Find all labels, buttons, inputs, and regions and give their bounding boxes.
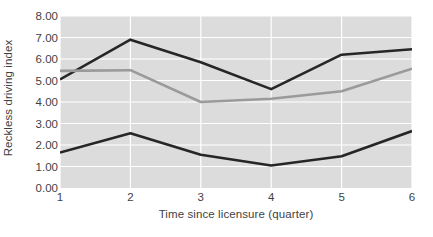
y-tick-label: 4.00 bbox=[26, 96, 58, 108]
grid-lines bbox=[60, 16, 412, 188]
y-tick-label: 3.00 bbox=[26, 118, 58, 130]
plot-svg bbox=[60, 16, 412, 188]
x-tick-label: 4 bbox=[256, 190, 286, 204]
x-tick-label: 1 bbox=[45, 190, 75, 204]
y-tick-label: 8.00 bbox=[26, 10, 58, 22]
plot-area bbox=[60, 16, 412, 188]
y-axis-tick-labels: 0.001.002.003.004.005.006.007.008.00 bbox=[26, 16, 58, 188]
x-tick-label: 6 bbox=[397, 190, 427, 204]
line-chart: Reckless driving index 0.001.002.003.004… bbox=[0, 0, 433, 237]
x-axis-title: Time since licensure (quarter) bbox=[60, 208, 412, 220]
x-tick-label: 3 bbox=[186, 190, 216, 204]
y-axis-title: Reckless driving index bbox=[0, 4, 16, 192]
x-tick-label: 2 bbox=[115, 190, 145, 204]
y-tick-label: 1.00 bbox=[26, 161, 58, 173]
data-series-line bbox=[60, 40, 412, 89]
y-tick-label: 2.00 bbox=[26, 139, 58, 151]
y-tick-label: 7.00 bbox=[26, 32, 58, 44]
y-tick-label: 6.00 bbox=[26, 53, 58, 65]
y-tick-label: 5.00 bbox=[26, 75, 58, 87]
x-tick-label: 5 bbox=[327, 190, 357, 204]
data-series-line bbox=[60, 69, 412, 102]
data-series-line bbox=[60, 131, 412, 165]
x-axis-tick-labels: 123456 bbox=[60, 190, 412, 206]
